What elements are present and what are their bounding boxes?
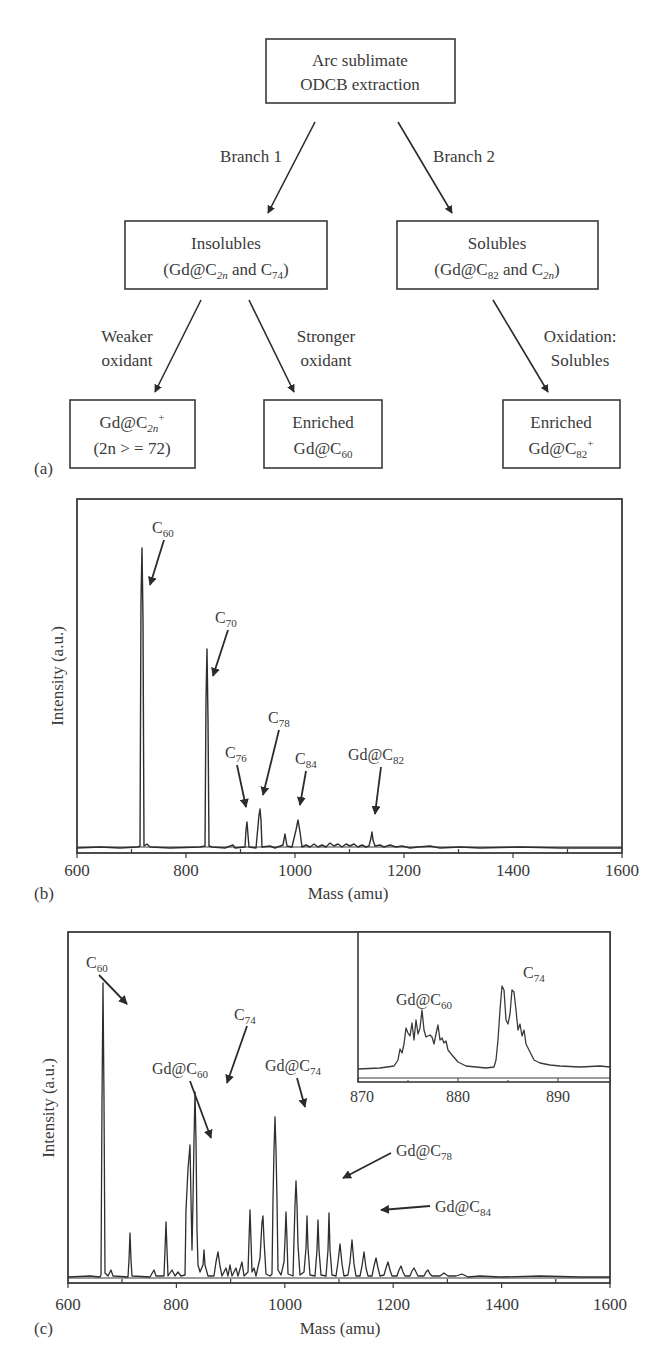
root-line1: Arc sublimate xyxy=(312,51,408,70)
panel-label-a: (a) xyxy=(34,459,53,478)
svg-text:C74: C74 xyxy=(234,1006,256,1026)
panel-label-b: (b) xyxy=(34,884,54,903)
svg-text:C70: C70 xyxy=(215,609,237,629)
insolubles-line1: Insolubles xyxy=(191,234,261,253)
svg-text:1200: 1200 xyxy=(376,1295,410,1314)
figure-canvas: Arc sublimate ODCB extraction Insolubles… xyxy=(0,0,664,1362)
edge-branch2-label: Branch 2 xyxy=(433,147,495,166)
svg-text:1000: 1000 xyxy=(268,1295,302,1314)
svg-text:800: 800 xyxy=(163,1295,189,1314)
panel-label-c: (c) xyxy=(34,1319,53,1338)
arrow-weaker xyxy=(155,300,201,392)
svg-text:Gd@C74: Gd@C74 xyxy=(265,1057,321,1077)
chart-b-ylabel: Intensity (a.u.) xyxy=(48,626,67,726)
solubles-line1: Solubles xyxy=(468,234,527,253)
leaf3-line1: Enriched xyxy=(530,413,592,432)
leaf1-line1: Gd@C2n+ xyxy=(100,411,165,434)
svg-text:870: 870 xyxy=(350,1088,374,1105)
inset-xticklabels: 870 880 890 xyxy=(350,1088,570,1105)
chart-b: 600 800 1000 1200 1400 1600 Mass (amu) I… xyxy=(34,499,639,903)
svg-text:Gd@C78: Gd@C78 xyxy=(396,1142,452,1162)
edge-stronger-label2: oxidant xyxy=(301,351,352,370)
svg-text:1600: 1600 xyxy=(593,1295,627,1314)
svg-text:1400: 1400 xyxy=(485,1295,519,1314)
leaf3-line2: Gd@C82+ xyxy=(529,437,594,460)
svg-text:Gd@C60: Gd@C60 xyxy=(152,1060,208,1080)
root-line2: ODCB extraction xyxy=(300,75,420,94)
svg-text:880: 880 xyxy=(446,1088,470,1105)
leaf2-line2: Gd@C60 xyxy=(294,439,353,460)
edge-oxidation-label2: Solubles xyxy=(551,351,610,370)
chart-c-xlabel: Mass (amu) xyxy=(300,1319,381,1338)
edge-weaker-label1: Weaker xyxy=(101,327,153,346)
svg-text:1000: 1000 xyxy=(278,861,312,880)
svg-text:1200: 1200 xyxy=(387,861,421,880)
arrow-oxidation xyxy=(493,300,548,392)
leaf1-line2: (2n > = 72) xyxy=(93,439,170,458)
edge-oxidation-label1: Oxidation: xyxy=(544,327,617,346)
edge-weaker-label2: oxidant xyxy=(102,351,153,370)
solubles-line2: (Gd@C82 and C2n) xyxy=(434,260,560,281)
chart-b-xlabel: Mass (amu) xyxy=(308,884,389,903)
arrow-stronger xyxy=(249,300,294,392)
svg-text:1600: 1600 xyxy=(605,861,639,880)
svg-text:C60: C60 xyxy=(86,954,108,974)
svg-text:Gd@C82: Gd@C82 xyxy=(348,746,404,766)
edge-stronger-label1: Stronger xyxy=(297,327,356,346)
svg-text:Gd@C84: Gd@C84 xyxy=(435,1198,491,1218)
svg-text:890: 890 xyxy=(546,1088,570,1105)
arrow-branch2 xyxy=(398,122,452,213)
chart-c-ylabel: Intensity (a.u.) xyxy=(39,1058,58,1158)
insolubles-line2: (Gd@C2n and C74) xyxy=(163,260,289,281)
chart-b-spectrum xyxy=(77,548,622,848)
svg-text:C84: C84 xyxy=(295,750,317,770)
svg-text:800: 800 xyxy=(173,861,199,880)
chart-c: 600 800 1000 1200 1400 1600 Mass (amu) I… xyxy=(34,932,627,1338)
svg-text:600: 600 xyxy=(55,1295,81,1314)
svg-text:600: 600 xyxy=(64,861,90,880)
chart-b-frame xyxy=(77,499,622,853)
svg-text:C76: C76 xyxy=(225,744,247,764)
svg-text:1400: 1400 xyxy=(496,861,530,880)
chart-b-annotation-arrows xyxy=(150,540,381,814)
svg-text:C78: C78 xyxy=(268,709,290,729)
chart-c-inset: 870 880 890 Gd@C60 C74 xyxy=(350,932,610,1105)
svg-text:C60: C60 xyxy=(152,519,174,539)
edge-branch1-label: Branch 1 xyxy=(220,147,282,166)
chart-c-xticklabels: 600 800 1000 1200 1400 1600 xyxy=(55,1295,627,1314)
flowchart-panel xyxy=(70,39,620,468)
arrow-branch1 xyxy=(268,122,315,213)
leaf2-line1: Enriched xyxy=(292,413,354,432)
chart-b-xticklabels: 600 800 1000 1200 1400 1600 xyxy=(64,861,639,880)
